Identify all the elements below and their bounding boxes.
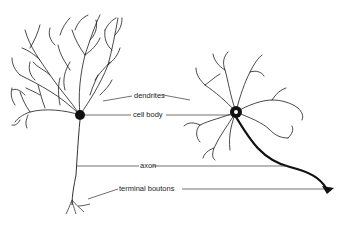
purkinje-axon	[72, 120, 80, 205]
terminal-bouton	[322, 186, 334, 194]
leader-lines	[77, 95, 324, 199]
label-dendrites: dendrites	[134, 92, 165, 100]
label-terminal-boutons: terminal boutons	[119, 185, 174, 193]
purkinje-dendritic-tree	[11, 15, 122, 128]
label-axon: axon	[140, 162, 156, 170]
neuron-diagram	[0, 0, 355, 225]
purkinje-terminals	[66, 200, 90, 214]
nucleus	[234, 110, 238, 114]
multipolar-axon	[236, 117, 326, 188]
purkinje-cell-body	[75, 110, 85, 120]
label-cell-body: cell body	[133, 111, 163, 119]
multipolar-dendrites	[184, 52, 303, 160]
